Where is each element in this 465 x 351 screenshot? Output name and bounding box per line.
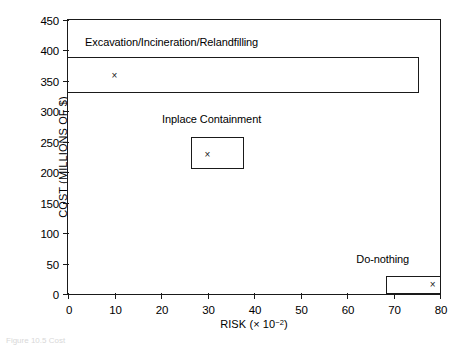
y-tick-100: 100	[63, 233, 69, 234]
x-tick-50: 50	[301, 293, 302, 299]
y-tick-label-450: 450	[40, 15, 59, 27]
y-tick-label-100: 100	[40, 228, 59, 240]
uncertainty-box-inplace-containment	[191, 137, 245, 169]
y-tick-250: 250	[63, 142, 69, 143]
x-axis-title: RISK (× 10−2)	[67, 318, 441, 330]
x-tick-40: 40	[254, 293, 255, 299]
x-tick-20: 20	[161, 293, 162, 299]
y-tick-label-0: 0	[53, 289, 59, 301]
uncertainty-box-excavation	[67, 57, 419, 94]
x-tick-10: 10	[115, 293, 116, 299]
y-tick-label-400: 400	[40, 45, 59, 57]
data-point-excavation: ×	[112, 71, 118, 81]
x-tick-30: 30	[208, 293, 209, 299]
x-tick-label-10: 10	[109, 304, 121, 316]
x-tick-60: 60	[347, 293, 348, 299]
figure-root: COST (MILLIONS OF $) 0 50 100 150 200 25…	[0, 0, 465, 351]
figure-caption: Figure 10.5 Cost	[6, 336, 65, 345]
x-tick-label-70: 70	[388, 304, 400, 316]
y-tick-50: 50	[63, 264, 69, 265]
data-point-do-nothing: ×	[430, 280, 436, 290]
y-tick-label-200: 200	[40, 167, 59, 179]
data-point-inplace-containment: ×	[205, 150, 211, 160]
annotation-do-nothing: Do-nothing	[356, 253, 409, 265]
x-tick-label-30: 30	[202, 304, 214, 316]
y-tick-label-300: 300	[40, 106, 59, 118]
y-tick-200: 200	[63, 172, 69, 173]
y-tick-label-150: 150	[40, 198, 59, 210]
x-tick-label-50: 50	[295, 304, 307, 316]
x-tick-label-40: 40	[249, 304, 261, 316]
y-axis-title-container: COST (MILLIONS OF $)	[0, 19, 22, 295]
annotation-inplace-containment: Inplace Containment	[162, 113, 261, 125]
y-tick-400: 400	[63, 50, 69, 51]
y-tick-label-250: 250	[40, 137, 59, 149]
x-tick-0: 0	[68, 293, 69, 299]
x-tick-label-80: 80	[435, 304, 447, 316]
x-axis-title-main: RISK (× 10	[220, 318, 275, 330]
x-tick-label-20: 20	[156, 304, 168, 316]
x-tick-label-0: 0	[66, 304, 72, 316]
x-axis-title-exponent: −2	[275, 318, 284, 327]
y-tick-150: 150	[63, 203, 69, 204]
y-tick-label-350: 350	[40, 76, 59, 88]
y-tick-300: 300	[63, 111, 69, 112]
y-tick-450: 450	[63, 20, 69, 21]
y-tick-label-50: 50	[47, 259, 59, 271]
x-axis-title-tail: )	[284, 318, 288, 330]
plot-area: 0 50 100 150 200 250 300 350 400 450 0 1…	[67, 19, 441, 295]
annotation-excavation: Excavation/Incineration/Relandfilling	[85, 36, 258, 48]
x-tick-label-60: 60	[342, 304, 354, 316]
